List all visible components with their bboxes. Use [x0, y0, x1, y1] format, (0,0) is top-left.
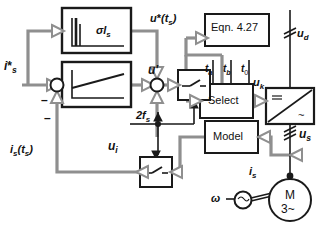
label-sigma-ls: σls — [96, 25, 111, 39]
control-block-diagram: i*s – σls u' u*(ts) Eqn. 4.27 ta tb t0 S… — [0, 0, 320, 226]
label-t-a: ta — [205, 64, 212, 76]
label-minus-feedback: – — [44, 112, 51, 124]
label-u-star-ts: u*(ts) — [150, 13, 176, 27]
label-u-s: us — [299, 128, 311, 143]
label-t-0: t0 — [241, 64, 248, 76]
label-u-i: ui — [108, 140, 118, 155]
label-motor-phases: 3~ — [281, 203, 295, 215]
inverter-block-shape — [266, 88, 314, 124]
label-i-s: is — [249, 166, 256, 180]
label-t-b: tb — [223, 64, 231, 76]
label-model-block: Model — [213, 131, 243, 142]
tacho-symbol-shape — [235, 192, 252, 209]
label-minus-sum1: – — [41, 94, 48, 106]
pi-controller-block-shape — [62, 62, 131, 107]
label-u-prime: u' — [148, 64, 158, 76]
label-inverter-ac: ~ — [298, 110, 304, 121]
label-motor-m: M — [285, 189, 295, 201]
label-two-fs: 2fs — [136, 110, 150, 124]
label-equation-block: Eqn. 4.27 — [211, 22, 258, 33]
label-u-d: ud — [297, 28, 309, 42]
label-u-k: uk — [253, 77, 264, 91]
label-select-block: Select — [208, 95, 239, 106]
label-i-s-sampled: is(ts) — [10, 144, 33, 158]
label-i-s-reference: i*s — [4, 60, 17, 75]
label-omega: ω — [211, 193, 220, 204]
